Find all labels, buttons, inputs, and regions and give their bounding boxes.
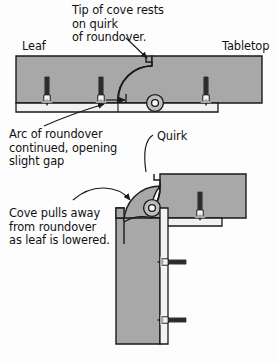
label-arc-of-roundover: Arc of roundover continued, opening slig… xyxy=(9,128,117,169)
lower-leaf-slab-vertical xyxy=(116,218,160,344)
upper-hinge-plate xyxy=(16,103,218,112)
lower-diagram xyxy=(116,174,246,344)
label-leaf: Leaf xyxy=(22,40,46,54)
label-tip-of-cove: Tip of cove rests on quirk of roundover. xyxy=(72,4,164,45)
lower-cove-fill xyxy=(116,208,124,218)
label-tabletop: Tabletop xyxy=(222,40,269,54)
rule-joint-hinge-figure: Tip of cove rests on quirk of roundover.… xyxy=(0,0,278,363)
lower-quirk-step xyxy=(154,174,160,186)
label-quirk: Quirk xyxy=(157,130,187,144)
cove-pulls-away-leader xyxy=(73,188,130,200)
upper-hinge-pin xyxy=(152,100,159,107)
label-cove-pulls-away: Cove pulls away from roundover as leaf i… xyxy=(9,207,110,248)
lower-hinge-pin xyxy=(149,205,156,212)
upper-diagram xyxy=(16,56,262,112)
figure-artwork xyxy=(0,0,278,363)
quirk-leader xyxy=(145,135,153,172)
